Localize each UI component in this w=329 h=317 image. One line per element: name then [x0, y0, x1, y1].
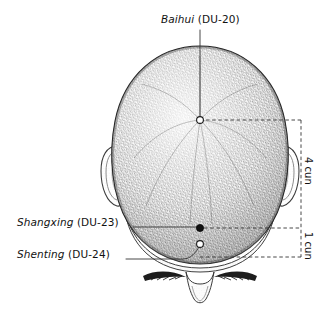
- acupoint-du24[interactable]: [197, 241, 204, 248]
- label-shangxing-code: (DU-23): [77, 216, 119, 228]
- label-shenting-code: (DU-24): [68, 248, 110, 260]
- measurement-label-1-cun: 1 cun: [303, 232, 314, 260]
- acupoint-du20[interactable]: [197, 117, 204, 124]
- label-shenting-name: Shenting: [17, 248, 65, 260]
- nose: [186, 272, 214, 303]
- label-shangxing-name: Shangxing: [17, 216, 73, 228]
- label-baihui-name: Baihui: [161, 13, 194, 25]
- eyebrows: [143, 272, 257, 281]
- label-baihui-code: (DU-20): [198, 13, 240, 25]
- label-shangxing: Shangxing (DU-23): [17, 216, 119, 228]
- measurement-label-4-cun: 4 cun: [303, 157, 314, 185]
- label-baihui: Baihui (DU-20): [161, 13, 240, 25]
- label-shenting: Shenting (DU-24): [17, 248, 110, 260]
- acupoint-du23[interactable]: [196, 224, 203, 231]
- head-acupoint-diagram: [0, 0, 329, 317]
